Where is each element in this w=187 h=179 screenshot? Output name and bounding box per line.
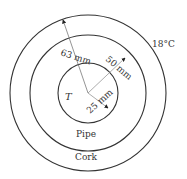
label-r-pipe: 50 mm — [104, 54, 135, 82]
label-r-cork: 63 mm — [59, 47, 92, 66]
label-r-inner: 25 mm — [85, 87, 115, 116]
pipe-diagram: 63 mm 50 mm 25 mm T 18°C Pipe Cork — [0, 0, 187, 179]
label-pipe: Pipe — [76, 129, 96, 139]
label-ambient-temp: 18°C — [152, 39, 175, 49]
label-cork: Cork — [75, 152, 98, 162]
label-inner-temp: T — [65, 91, 73, 102]
